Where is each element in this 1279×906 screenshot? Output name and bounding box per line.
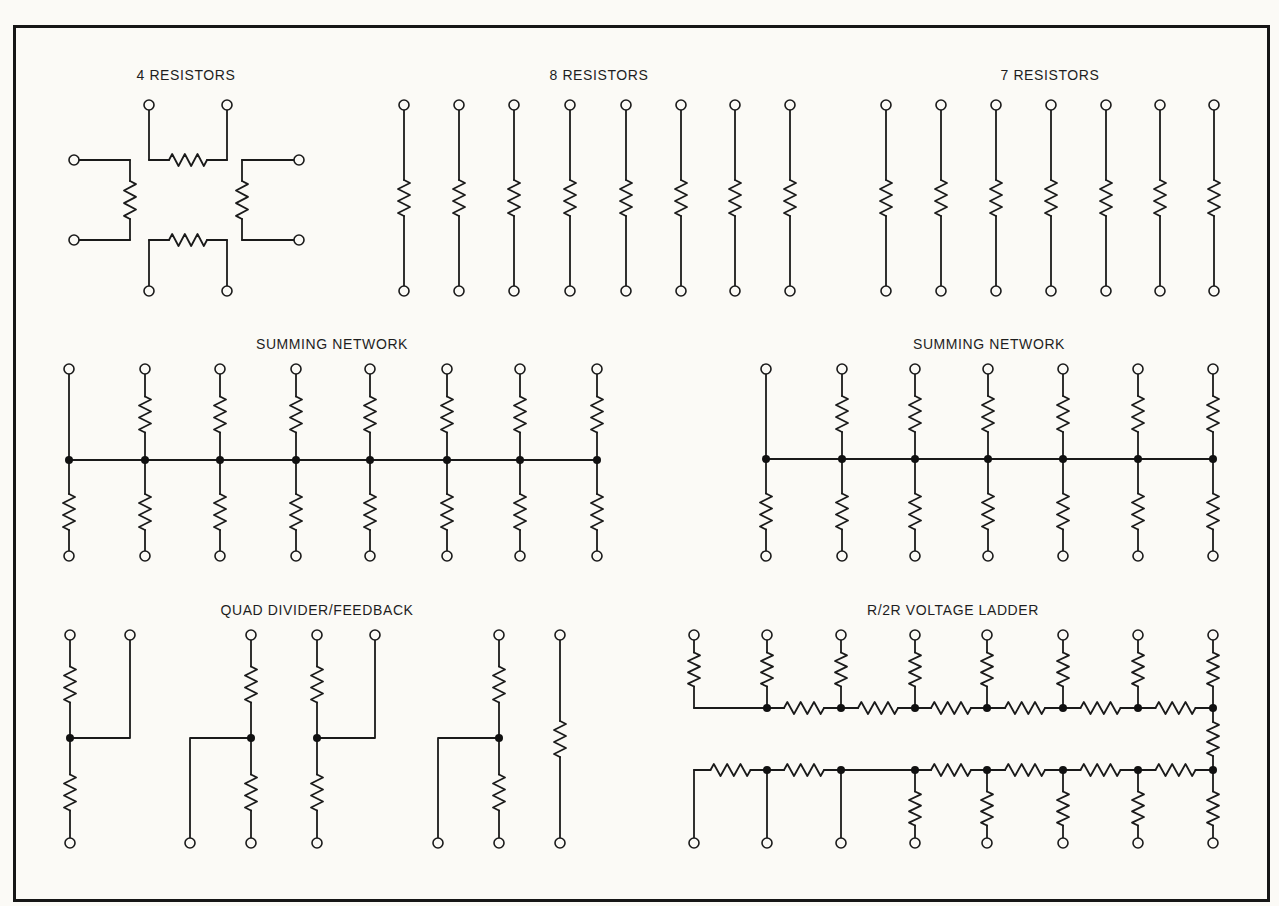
resistor-icon — [245, 667, 257, 703]
terminal-icon — [785, 100, 795, 110]
terminal-icon — [836, 630, 846, 640]
terminal-icon — [983, 551, 993, 561]
resistor-icon — [858, 702, 898, 714]
terminal-icon — [837, 364, 847, 374]
junction-node-icon — [1209, 704, 1217, 712]
terminal-icon — [215, 551, 225, 561]
terminal-icon — [936, 100, 946, 110]
terminal-icon — [312, 838, 322, 848]
terminal-icon — [936, 286, 946, 296]
terminal-icon — [982, 838, 992, 848]
resistor-icon — [169, 154, 207, 166]
resistor-icon — [63, 494, 75, 530]
terminal-icon — [689, 838, 699, 848]
terminal-icon — [910, 364, 920, 374]
resistor-icon — [245, 775, 257, 811]
terminal-icon — [365, 364, 375, 374]
resistor-icon — [880, 180, 892, 216]
resistor-icon — [1005, 702, 1045, 714]
terminal-icon — [910, 630, 920, 640]
resistor-icon — [1207, 722, 1219, 756]
summing-network-1 — [63, 364, 603, 561]
terminal-icon — [65, 630, 75, 640]
junction-node-icon — [837, 704, 845, 712]
resistor-icon — [760, 494, 772, 530]
terminal-icon — [246, 838, 256, 848]
resistor-icon — [564, 180, 576, 216]
resistor-icon — [311, 775, 323, 811]
terminal-icon — [509, 286, 519, 296]
resistor-icon — [981, 653, 993, 687]
terminal-icon — [185, 838, 195, 848]
resistor-icon — [1132, 396, 1144, 432]
resistor-icon — [675, 180, 687, 216]
terminal-icon — [1101, 100, 1111, 110]
terminal-icon — [689, 630, 699, 640]
terminal-icon — [494, 630, 504, 640]
resistor-icon — [214, 494, 226, 530]
resistor-icon — [169, 234, 207, 246]
junction-node-icon — [1209, 766, 1217, 774]
resistor-icon — [441, 397, 453, 433]
junction-node-icon — [1059, 704, 1067, 712]
terminal-icon — [509, 100, 519, 110]
resistor-icon — [311, 667, 323, 703]
terminal-icon — [555, 838, 565, 848]
terminal-icon — [565, 286, 575, 296]
resistor-icon — [1100, 180, 1112, 216]
terminal-icon — [144, 100, 154, 110]
terminal-icon — [1209, 100, 1219, 110]
junction-node-icon — [65, 456, 73, 464]
terminal-icon — [910, 551, 920, 561]
resistor-icon — [1132, 653, 1144, 687]
terminal-icon — [762, 838, 772, 848]
resistor-icon — [909, 792, 921, 826]
resistor-icon — [364, 494, 376, 530]
terminal-icon — [1133, 838, 1143, 848]
section-title-summing-network-2: SUMMING NETWORK — [913, 336, 1065, 352]
terminal-icon — [399, 100, 409, 110]
terminal-icon — [991, 286, 1001, 296]
resistor-icon — [554, 721, 566, 757]
terminal-icon — [555, 630, 565, 640]
terminal-icon — [1133, 630, 1143, 640]
terminal-icon — [69, 155, 79, 165]
terminal-icon — [881, 286, 891, 296]
terminal-icon — [454, 286, 464, 296]
resistor-icon — [982, 396, 994, 432]
terminal-icon — [1208, 551, 1218, 561]
resistor-icon — [1057, 653, 1069, 687]
resistor-icon — [982, 494, 994, 530]
resistor-icon — [1045, 180, 1057, 216]
terminal-icon — [991, 100, 1001, 110]
terminal-icon — [370, 630, 380, 640]
terminal-icon — [910, 838, 920, 848]
terminal-icon — [365, 551, 375, 561]
four-resistors-network — [69, 100, 304, 296]
terminal-icon — [1046, 100, 1056, 110]
summing-network-2 — [760, 364, 1219, 561]
section-title-seven-resistors: 7 RESISTORS — [1001, 67, 1100, 83]
resistor-icon — [1156, 702, 1196, 714]
junction-node-icon — [838, 455, 846, 463]
terminal-icon — [1058, 551, 1068, 561]
terminal-icon — [1133, 364, 1143, 374]
resistor-icon — [1005, 764, 1045, 776]
resistor-icon — [1207, 653, 1219, 687]
terminal-icon — [222, 100, 232, 110]
terminal-icon — [64, 551, 74, 561]
section-title-eight-resistors: 8 RESISTORS — [550, 67, 649, 83]
terminal-icon — [762, 630, 772, 640]
terminal-icon — [69, 235, 79, 245]
resistor-icon — [214, 397, 226, 433]
terminal-icon — [442, 364, 452, 374]
section-title-summing-network-1: SUMMING NETWORK — [256, 336, 408, 352]
terminal-icon — [291, 364, 301, 374]
junction-node-icon — [443, 456, 451, 464]
junction-node-icon — [495, 734, 503, 742]
junction-node-icon — [1059, 455, 1067, 463]
terminal-icon — [621, 286, 631, 296]
resistor-icon — [990, 180, 1002, 216]
terminal-icon — [215, 364, 225, 374]
resistor-icon — [836, 494, 848, 530]
